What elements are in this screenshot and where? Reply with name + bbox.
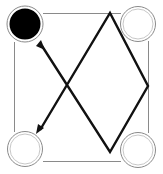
node-bottom-left[interactable] xyxy=(8,132,43,167)
node-bottom-right[interactable] xyxy=(121,133,156,168)
node-top-right[interactable] xyxy=(121,7,156,42)
node-top-left[interactable] xyxy=(7,6,43,42)
game-board xyxy=(0,0,163,174)
arrow-start-icon xyxy=(36,40,45,50)
